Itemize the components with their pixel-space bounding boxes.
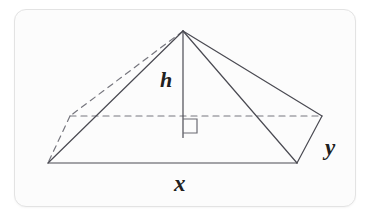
base-length-label: x xyxy=(174,172,186,195)
base-width-label: y xyxy=(325,136,335,159)
edge-apex-to-back-right xyxy=(183,31,322,116)
edge-apex-to-front-right xyxy=(183,31,297,163)
figure-root: h x y xyxy=(0,0,371,217)
solid-edges xyxy=(48,31,322,163)
dashed-edges xyxy=(48,31,322,163)
edge-apex-to-front-left xyxy=(48,31,183,163)
edge-back-left-to-front-left xyxy=(48,116,70,163)
height-label: h xyxy=(160,69,172,91)
right-angle-icon xyxy=(183,119,197,133)
edge-front-right-to-back-right xyxy=(297,116,322,163)
